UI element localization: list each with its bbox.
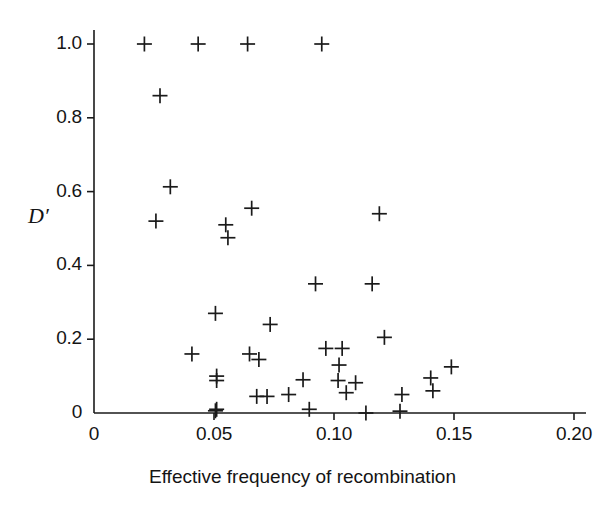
data-point-marker bbox=[348, 375, 363, 390]
data-point-marker bbox=[393, 404, 408, 419]
data-point-marker bbox=[377, 330, 392, 345]
data-point-marker bbox=[208, 403, 223, 418]
data-point-marker bbox=[365, 276, 380, 291]
data-point-marker bbox=[314, 37, 329, 52]
x-tick-label: 0 bbox=[54, 423, 134, 445]
data-point-marker bbox=[191, 37, 206, 52]
data-point-marker bbox=[332, 358, 347, 373]
data-point-marker bbox=[244, 201, 259, 216]
data-point-marker bbox=[358, 406, 373, 421]
data-point-marker bbox=[240, 37, 255, 52]
y-tick-label: 0.4 bbox=[56, 253, 82, 275]
data-point-marker bbox=[318, 341, 333, 356]
data-point-marker bbox=[218, 217, 233, 232]
data-point-marker bbox=[260, 389, 275, 404]
data-point-marker bbox=[281, 387, 296, 402]
x-axis-title: Effective frequency of recombination bbox=[0, 466, 605, 488]
data-point-marker bbox=[339, 385, 354, 400]
data-point-marker bbox=[148, 214, 163, 229]
x-tick-label: 0.05 bbox=[174, 423, 254, 445]
data-point-marker bbox=[220, 230, 235, 245]
data-point-marker bbox=[153, 88, 168, 103]
axes bbox=[94, 30, 586, 413]
data-markers bbox=[137, 37, 459, 421]
y-tick-label: 0.6 bbox=[56, 180, 82, 202]
data-point-marker bbox=[331, 373, 346, 388]
data-point-marker bbox=[263, 317, 278, 332]
x-tick-label: 0.15 bbox=[414, 423, 494, 445]
data-point-marker bbox=[302, 402, 317, 417]
y-axis-title: D′ bbox=[28, 203, 49, 229]
x-tick-label: 0.10 bbox=[294, 423, 374, 445]
data-point-marker bbox=[137, 37, 152, 52]
data-point-marker bbox=[335, 341, 350, 356]
data-point-marker bbox=[184, 346, 199, 361]
data-point-marker bbox=[163, 179, 178, 194]
data-point-marker bbox=[425, 383, 440, 398]
data-point-marker bbox=[208, 306, 223, 321]
y-tick-label: 0 bbox=[72, 401, 82, 423]
y-tick-label: 1.0 bbox=[56, 32, 82, 54]
data-point-marker bbox=[423, 370, 438, 385]
data-point-marker bbox=[372, 206, 387, 221]
x-tick-label: 0.20 bbox=[534, 423, 605, 445]
data-point-marker bbox=[308, 276, 323, 291]
data-point-marker bbox=[296, 372, 311, 387]
data-point-marker bbox=[444, 359, 459, 374]
y-tick-label: 0.2 bbox=[56, 327, 82, 349]
y-tick-label: 0.8 bbox=[56, 106, 82, 128]
scatter-plot-figure: 00.20.40.60.81.0 00.050.100.150.20 D′ Ef… bbox=[0, 0, 605, 514]
data-point-marker bbox=[209, 402, 224, 417]
data-point-marker bbox=[394, 387, 409, 402]
